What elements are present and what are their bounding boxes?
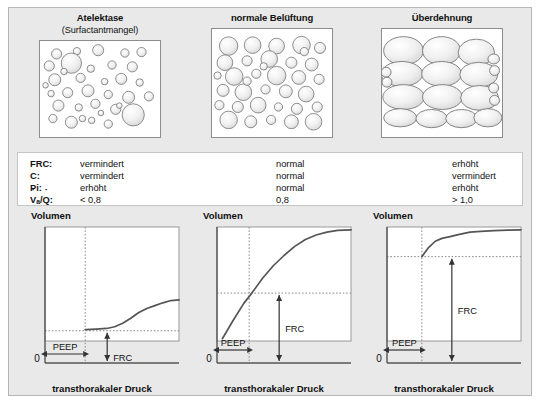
alveoli-panel-normal: normale Belüftung (189, 12, 355, 148)
cell-frc-atelectasis: vermindert (80, 159, 124, 169)
cell-c-atelectasis: vermindert (80, 171, 124, 181)
peep-label: PEEP (392, 338, 417, 348)
x-axis-label: transthorakaler Druck (359, 383, 529, 394)
table-row: Va/Q: < 0,8 0,8 > 1,0 (18, 195, 522, 207)
x-axis-label: transthorakaler Druck (189, 383, 359, 394)
table-row: FRC: vermindert normal erhöht (18, 159, 522, 171)
table-row: C: vermindert normal vermindert (18, 171, 522, 183)
origin-label: 0 (376, 353, 382, 364)
frc-label: FRC (285, 324, 304, 334)
origin-label: 0 (34, 353, 40, 364)
y-axis-label: Volumen (373, 210, 413, 221)
ratio-colon: : (50, 195, 53, 205)
origin-label: 0 (206, 353, 212, 364)
alveoli-diagram-overdistension (381, 28, 503, 138)
q-dot-symbol: Q (43, 195, 50, 205)
cell-vaq-normal: 0,8 (276, 195, 289, 205)
row-label-compliance: C: (30, 171, 40, 181)
frc-label: FRC (458, 306, 477, 316)
alveoli-diagram-normal (211, 28, 333, 138)
chart-pressure-volume-atelectasis: Volumen 0PEEPFRC transthorakaler Druck (17, 210, 187, 394)
cell-pi-overdistension: erhöht (452, 183, 478, 193)
table-row: Pi: erhöht normal erhöht (18, 183, 522, 195)
cell-vaq-atelectasis: < 0,8 (80, 195, 101, 205)
parameter-table: FRC: vermindert normal erhöht C: vermind… (17, 152, 523, 206)
cell-c-overdistension: vermindert (452, 171, 496, 181)
panel-subtitle: (Surfactantmangel) (17, 24, 183, 36)
frc-label: FRC (113, 353, 132, 363)
x-axis-label: transthorakaler Druck (17, 383, 187, 394)
row-label-frc: FRC: (30, 159, 52, 169)
peep-label: PEEP (53, 342, 78, 352)
row-label-va-q: Va/Q: (30, 195, 53, 205)
figure-container: Atelektase (Surfactantmangel) normale Be… (8, 7, 532, 396)
cell-pi-normal: normal (276, 183, 304, 193)
y-axis-label: Volumen (31, 210, 71, 221)
peep-label: PEEP (221, 338, 246, 348)
alveoli-diagram-atelectasis (39, 40, 161, 138)
chart-pressure-volume-overdistension: Volumen 0PEEPFRC transthorakaler Druck (359, 210, 529, 394)
panel-title: normale Belüftung (189, 12, 355, 24)
cell-frc-normal: normal (276, 159, 304, 169)
cell-frc-overdistension: erhöht (452, 159, 478, 169)
cell-c-normal: normal (276, 171, 304, 181)
alveoli-panel-overdistension: Überdehnung (359, 12, 525, 148)
chart-pressure-volume-normal: Volumen 0PEEPFRC transthorakaler Druck (189, 210, 359, 394)
cell-pi-atelectasis: erhöht (80, 183, 106, 193)
panel-title: Überdehnung (359, 12, 525, 24)
v-dot-symbol: V (30, 195, 36, 205)
cell-vaq-overdistension: > 1,0 (452, 195, 473, 205)
alveoli-panel-atelectasis: Atelektase (Surfactantmangel) (17, 12, 183, 148)
panel-title: Atelektase (17, 12, 183, 24)
y-axis-label: Volumen (203, 210, 243, 221)
